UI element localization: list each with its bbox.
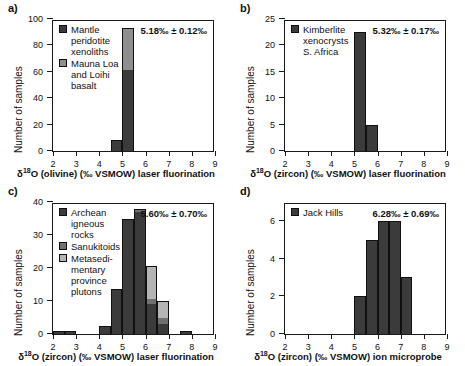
- x-axis-label: δ18O (olivine) (‰ VSMOW) laser fluorinat…: [0, 167, 232, 179]
- y-axis-tick: [279, 124, 285, 125]
- histogram-bar-segment: [355, 32, 365, 151]
- panel-d: d)024623456789Number of samples6.28‰ ± 0…: [232, 183, 464, 366]
- histogram-bar-segment: [158, 318, 168, 325]
- figure-root: a)02040608010023456789Number of samples5…: [0, 0, 465, 366]
- x-axis-label: δ18O (zircon) (‰ VSMOW) laser fluorinati…: [232, 167, 464, 179]
- bar-top-edge: [367, 240, 377, 241]
- legend-swatch-icon: [59, 25, 67, 33]
- x-axis-tick: [378, 151, 379, 156]
- histogram-bar: [53, 331, 65, 334]
- stats-annotation: 5.32‰ ± 0.17‰: [373, 25, 439, 36]
- y-axis-tick: [47, 124, 53, 125]
- histogram-bar-segment: [123, 70, 133, 151]
- y-axis-tick: [279, 258, 285, 259]
- histogram-bar: [157, 301, 169, 334]
- legend-label: Mauna Loa and Loihi basalt: [71, 58, 119, 91]
- x-axis-tick: [308, 334, 309, 339]
- x-axis-tick: [169, 334, 170, 339]
- panel-letter: c): [8, 185, 18, 197]
- histogram-bar-segment: [147, 299, 157, 304]
- y-axis-tick: [47, 234, 53, 235]
- y-axis-tick: [279, 97, 285, 98]
- legend-item: Kimberlite xenocrysts S. Africa: [291, 24, 348, 57]
- x-axis-tick: [99, 151, 100, 156]
- histogram-bar: [122, 219, 134, 335]
- plot-area: 024623456789Number of samples6.28‰ ± 0.6…: [284, 203, 446, 335]
- histogram-bar: [401, 277, 413, 334]
- x-axis-tick: [285, 334, 286, 339]
- x-axis-tick: [424, 334, 425, 339]
- histogram-bar: [366, 240, 378, 334]
- plot-area: 02040608010023456789Number of samples5.1…: [52, 20, 214, 152]
- legend-item: Mantle peridotite xenoliths: [59, 24, 119, 57]
- y-axis-tick: [279, 220, 285, 221]
- y-axis-tick-label: 20: [249, 40, 275, 50]
- x-axis-tick: [99, 334, 100, 339]
- legend-label: Kimberlite xenocrysts S. Africa: [303, 24, 348, 57]
- panel-a: a)02040608010023456789Number of samples5…: [0, 0, 232, 183]
- panel-letter: b): [240, 2, 250, 14]
- histogram-bar: [65, 331, 77, 334]
- bar-top-edge: [379, 221, 389, 222]
- histogram-bar: [122, 28, 134, 151]
- legend-item: Metasedi- mentary province plutons: [59, 253, 120, 297]
- y-axis-tick: [279, 44, 285, 45]
- histogram-bar-segment: [123, 219, 133, 335]
- legend-label: Archean igneous rocks: [71, 207, 106, 240]
- x-axis-tick: [285, 151, 286, 156]
- histogram-bar: [111, 140, 123, 151]
- legend-swatch-icon: [59, 59, 67, 67]
- legend-swatch-icon: [59, 208, 67, 216]
- y-axis-tick: [279, 71, 285, 72]
- histogram-bar: [180, 331, 192, 334]
- x-axis-tick: [122, 334, 123, 339]
- histogram-bar: [354, 296, 366, 334]
- legend-item: Mauna Loa and Loihi basalt: [59, 58, 119, 91]
- bar-top-edge: [147, 266, 157, 267]
- bar-top-edge: [367, 125, 377, 126]
- bar-top-edge: [100, 326, 110, 327]
- y-axis-tick: [47, 97, 53, 98]
- legend: Mantle peridotite xenolithsMauna Loa and…: [59, 24, 119, 92]
- x-axis-tick: [354, 151, 355, 156]
- legend-label: Sanukitoids: [71, 241, 120, 252]
- plot-area: 051015202523456789Number of samples5.32‰…: [284, 20, 446, 152]
- x-axis-tick: [215, 334, 216, 339]
- y-axis-tick: [279, 18, 285, 19]
- bar-top-edge: [355, 32, 365, 33]
- x-axis-tick: [76, 334, 77, 339]
- x-axis-tick: [447, 334, 448, 339]
- y-axis-tick: [47, 44, 53, 45]
- histogram-bar: [378, 221, 390, 334]
- histogram-bar-segment: [100, 326, 110, 334]
- histogram-bar-segment: [390, 221, 400, 334]
- bar-top-edge: [54, 331, 64, 332]
- x-axis-tick: [192, 334, 193, 339]
- legend-item: Jack Hills: [291, 207, 343, 218]
- histogram-bar: [366, 125, 378, 151]
- y-axis-label: Number of samples: [13, 66, 24, 153]
- histogram-bar-segment: [112, 140, 122, 151]
- legend-swatch-icon: [59, 254, 67, 262]
- panel-letter: d): [240, 185, 250, 197]
- x-axis-label: δ18O (zircon) (‰ VSMOW) ion microprobe: [232, 350, 464, 362]
- plot-area: 01020304023456789Number of samples5.60‰ …: [52, 203, 214, 335]
- x-axis-tick: [192, 151, 193, 156]
- bar-top-edge: [390, 221, 400, 222]
- stats-annotation: 5.18‰ ± 0.12‰: [141, 25, 207, 36]
- histogram-bar-segment: [147, 266, 157, 299]
- legend-label: Jack Hills: [303, 207, 343, 218]
- legend: Kimberlite xenocrysts S. Africa: [291, 24, 348, 58]
- x-axis-tick: [308, 151, 309, 156]
- histogram-bar-segment: [355, 296, 365, 334]
- x-axis-tick: [169, 151, 170, 156]
- y-axis-tick: [47, 300, 53, 301]
- x-axis-tick: [447, 151, 448, 156]
- histogram-bar-segment: [367, 125, 377, 151]
- legend: Jack Hills: [291, 207, 343, 219]
- histogram-bar: [146, 266, 158, 334]
- x-axis-tick: [215, 151, 216, 156]
- bars-layer: [285, 204, 445, 334]
- x-axis-tick: [146, 334, 147, 339]
- y-axis-tick-label: 25: [249, 14, 275, 24]
